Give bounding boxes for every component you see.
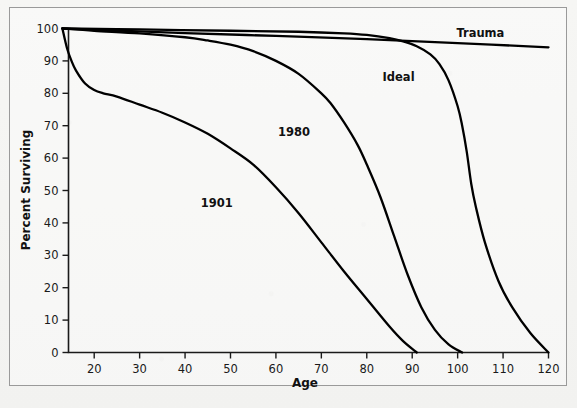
x-tick-label-70: 70 (314, 362, 329, 376)
y-tick-label-0: 0 (51, 346, 58, 360)
x-tick-marks (94, 353, 548, 359)
y-tick-label-40: 40 (44, 216, 59, 230)
series-label-ideal: Ideal (383, 70, 415, 84)
series-label-1980: 1980 (278, 125, 310, 139)
series-labels: 19011980IdealTrauma (201, 26, 504, 210)
y-tick-label-30: 30 (44, 248, 59, 262)
chart-page: 2030405060708090100110120 01020304050607… (0, 0, 577, 408)
curve-ideal (62, 29, 548, 353)
x-tick-label-90: 90 (405, 362, 420, 376)
y-tick-label-60: 60 (44, 151, 59, 165)
curve-1901 (62, 29, 416, 353)
y-tick-label-90: 90 (44, 54, 59, 68)
x-axis-title: Age (292, 376, 318, 390)
x-tick-labels: 2030405060708090100110120 (87, 362, 560, 376)
curve-group (62, 29, 548, 353)
series-label-1901: 1901 (201, 196, 233, 210)
x-tick-label-40: 40 (178, 362, 193, 376)
y-tick-label-80: 80 (44, 86, 59, 100)
y-tick-label-70: 70 (44, 119, 59, 133)
x-tick-label-100: 100 (447, 362, 469, 376)
x-tick-label-60: 60 (269, 362, 284, 376)
y-tick-label-20: 20 (44, 281, 59, 295)
y-tick-label-50: 50 (44, 184, 59, 198)
survival-curve-chart: 2030405060708090100110120 01020304050607… (0, 0, 577, 408)
y-tick-labels: 0102030405060708090100 (37, 22, 59, 360)
series-label-trauma: Trauma (456, 26, 504, 40)
x-tick-label-50: 50 (223, 362, 238, 376)
axis-lines (69, 29, 549, 353)
x-tick-label-20: 20 (87, 362, 102, 376)
x-tick-label-120: 120 (538, 362, 560, 376)
x-tick-label-30: 30 (132, 362, 147, 376)
x-tick-label-110: 110 (492, 362, 514, 376)
x-tick-label-80: 80 (359, 362, 374, 376)
y-axis-title: Percent Surviving (19, 130, 33, 251)
y-tick-label-10: 10 (44, 313, 59, 327)
y-tick-marks (63, 29, 69, 353)
y-tick-label-100: 100 (37, 22, 59, 36)
